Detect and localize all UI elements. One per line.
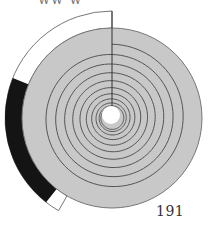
- page-number: 191: [156, 203, 184, 219]
- center-hole: [102, 106, 120, 124]
- spiral-diagram: [0, 0, 217, 225]
